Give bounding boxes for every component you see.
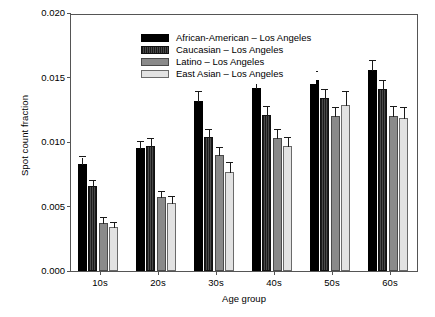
x-tick-label: 50s [310,277,354,288]
x-tick-mark [390,271,391,275]
x-tick-mark [274,271,275,275]
error-bar-line [277,130,278,139]
error-bar-line [393,107,394,117]
bar [341,105,350,271]
y-axis-title: Spot count fraction [19,66,30,206]
y-tick-mark [67,271,71,272]
legend-swatch [141,58,169,66]
error-bar-cap [137,141,144,142]
x-tick-label: 40s [252,277,296,288]
bar-chart-figure: Spot count fraction 0.0000.0050.0100.015… [0,0,435,317]
bar [320,98,329,271]
x-tick-mark [216,271,217,275]
error-bar-cap [263,106,270,107]
bar [399,118,408,272]
error-bar-line [404,108,405,118]
x-tick-label: 10s [78,277,122,288]
error-bar-cap [205,129,212,130]
error-bar-cap [79,156,86,157]
x-tick-label: 60s [368,277,412,288]
error-bar-cap [168,196,175,197]
bar [78,164,87,271]
error-bar-line [172,197,173,203]
bar [109,227,118,271]
legend-label: Latino – Los Angeles [176,56,264,67]
error-bar-line [198,92,199,102]
legend-item: Latino – Los Angeles [141,56,311,67]
error-bar-line [161,192,162,198]
error-bar-line [209,130,210,137]
chart-legend: African-American – Los AngelesCaucasian … [137,29,316,84]
error-bar-line [346,92,347,106]
bar [99,223,108,271]
bar [146,146,155,271]
bar [167,203,176,271]
bar [252,88,261,271]
bar [136,148,145,271]
error-bar-line [219,148,220,155]
y-tick-label: 0.015 [41,72,65,83]
error-bar-cap [321,89,328,90]
error-bar-line [288,138,289,147]
y-tick-mark [67,77,71,78]
error-bar-line [383,81,384,90]
bar [215,155,224,271]
legend-item: Caucasian – Los Angeles [141,44,311,55]
error-bar-cap [332,107,339,108]
legend-item: African-American – Los Angeles [141,32,311,43]
legend-label: Caucasian – Los Angeles [176,44,283,55]
error-bar-cap [379,80,386,81]
y-tick-label: 0.000 [41,265,65,276]
bar [88,186,97,271]
error-bar-line [372,61,373,71]
x-tick-mark [158,271,159,275]
bar [310,80,319,271]
bar [194,101,203,271]
error-bar-line [103,218,104,224]
legend-swatch [141,46,169,54]
error-bar-line [325,90,326,99]
x-tick-label: 30s [194,277,238,288]
y-tick-label: 0.010 [41,136,65,147]
legend-item: East Asian – Los Angeles [141,68,311,79]
error-bar-cap [400,107,407,108]
bar [331,116,340,271]
y-tick-mark [67,13,71,14]
error-bar-cap [216,147,223,148]
legend-swatch [141,70,169,78]
x-axis-title: Age group [70,293,418,304]
legend-label: East Asian – Los Angeles [176,68,283,79]
error-bar-line [151,139,152,146]
bar [368,70,377,271]
error-bar-cap [274,129,281,130]
y-tick-label: 0.020 [41,7,65,18]
error-bar-cap [100,217,107,218]
bar [157,197,166,271]
error-bar-cap [390,106,397,107]
error-bar-cap [110,222,117,223]
error-bar-cap [369,60,376,61]
bar [262,115,271,271]
bar [378,89,387,271]
error-bar-cap [226,162,233,163]
error-bar-cap [147,138,154,139]
error-bar-line [82,158,83,165]
error-bar-line [335,108,336,117]
bar [273,138,282,271]
x-tick-mark [332,271,333,275]
error-bar-line [230,163,231,173]
error-bar-line [93,181,94,187]
error-bar-cap [195,91,202,92]
plot-area: 0.0000.0050.0100.0150.020 10s20s30s40s50… [70,14,418,272]
y-tick-mark [67,206,71,207]
error-bar-cap [342,91,349,92]
legend-label: African-American – Los Angeles [176,32,311,43]
error-bar-cap [89,180,96,181]
y-tick-mark [67,142,71,143]
bar [225,172,234,271]
error-bar-cap [158,191,165,192]
error-bar-cap [284,137,291,138]
error-bar-line [267,107,268,116]
error-bar-line [140,142,141,149]
legend-swatch [141,34,169,42]
